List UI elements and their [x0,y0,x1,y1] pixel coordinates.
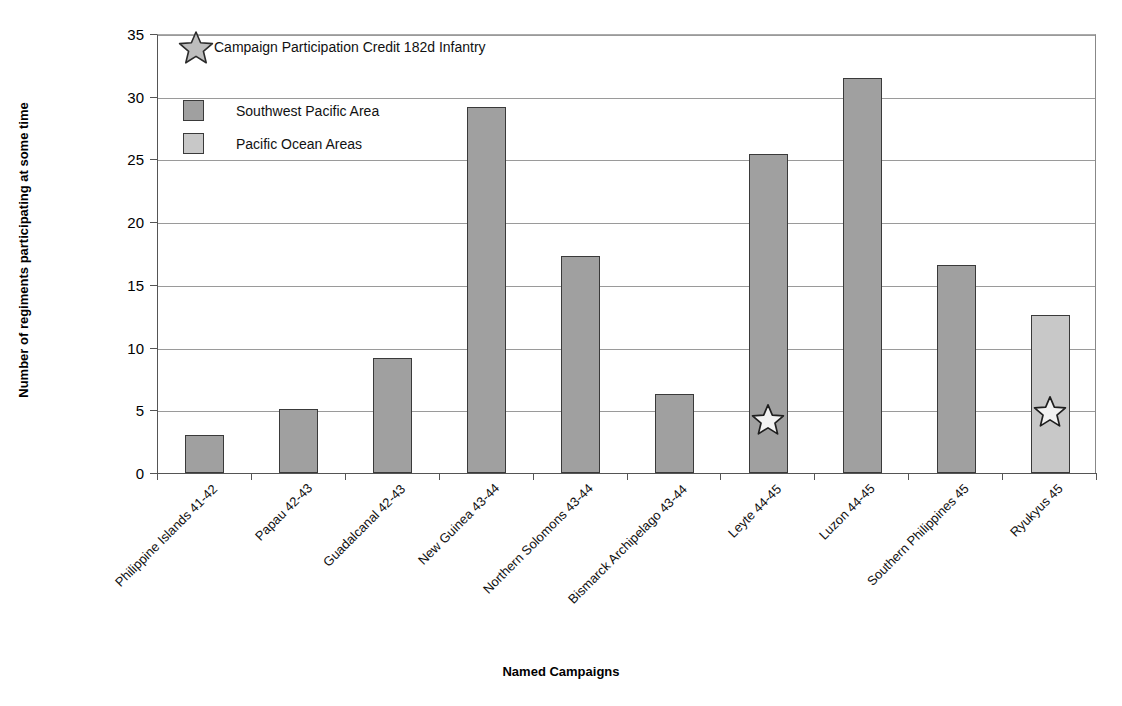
x-tick-mark [439,473,440,480]
x-tick-label: Ryukyus 45 [1007,481,1066,540]
legend-swatch-swpa [183,100,204,121]
y-tick-label: 5 [98,402,144,419]
y-tick-label: 25 [98,151,144,168]
x-tick-label: Papau 42-43 [252,481,315,544]
gridline [158,223,1095,224]
x-tick-mark [345,473,346,480]
y-tick-label: 0 [98,465,144,482]
legend-label-poa: Pacific Ocean Areas [236,136,362,152]
y-tick-label: 20 [98,214,144,231]
bar [561,256,600,473]
legend-swatch-poa [183,133,204,154]
x-tick-mark [1002,473,1003,480]
chart-figure: Number of regiments participating at som… [0,0,1122,706]
legend-entry-poa: Pacific Ocean Areas [183,133,362,154]
y-axis-title-text: Number of regiments participating at som… [16,102,31,397]
y-tick-label: 30 [98,88,144,105]
legend-label-swpa: Southwest Pacific Area [236,103,379,119]
star-icon [178,30,214,64]
x-tick-mark [814,473,815,480]
legend-entry-swpa: Southwest Pacific Area [183,100,379,121]
bar [937,265,976,473]
x-tick-label: Northern Solomons 43-44 [480,481,596,597]
bar [655,394,694,473]
x-tick-label: Guadalcanal 42-43 [320,481,408,569]
x-tick-mark [908,473,909,480]
y-tick-label: 35 [98,26,144,43]
x-tick-mark [720,473,721,480]
x-tick-label: New Guinea 43-44 [415,481,502,568]
star-icon [1033,395,1067,431]
x-axis-title: Named Campaigns [0,664,1122,679]
clipped-title [0,0,1122,2]
bar [843,78,882,473]
legend: Campaign Participation Credit 182d Infan… [178,30,598,170]
y-tick-label: 10 [98,339,144,356]
x-tick-label: Leyte 44-45 [725,481,784,540]
x-tick-label: Philippine Islands 41-42 [112,481,220,589]
x-tick-mark [533,473,534,480]
bar [185,435,224,473]
x-tick-label: Luzon 44-45 [816,481,878,543]
y-tick-label: 15 [98,276,144,293]
legend-entry-campaign-credit: Campaign Participation Credit 182d Infan… [178,30,486,64]
star-icon [751,403,785,439]
x-tick-mark [1096,473,1097,480]
x-tick-mark [251,473,252,480]
y-axis-title: Number of regiments participating at som… [6,22,40,477]
x-tick-label: Southern Philippines 45 [864,481,972,589]
bar [279,409,318,473]
legend-label-campaign-credit: Campaign Participation Credit 182d Infan… [214,39,486,55]
x-tick-mark [627,473,628,480]
bar [373,358,412,473]
x-tick-mark [157,473,158,480]
